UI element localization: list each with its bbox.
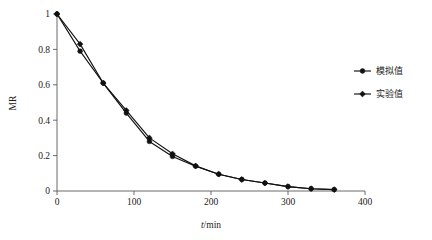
y-axis-tick-label: 1: [45, 9, 50, 19]
y-axis-tick-label: 0: [45, 186, 50, 196]
y-axis-title: MR: [8, 95, 18, 110]
x-axis-tick-label: 300: [281, 197, 296, 207]
y-axis-tick-label: 0.6: [38, 80, 50, 90]
y-axis-tick-label: 0.4: [38, 116, 50, 126]
x-axis-tick-label: 100: [127, 197, 142, 207]
legend-label: 实验值: [376, 88, 403, 99]
y-axis-tick-label: 0.2: [38, 151, 50, 161]
x-axis-tick-label: 200: [204, 197, 219, 207]
x-axis-title-unit: /min: [204, 220, 222, 230]
legend-label: 模拟值: [376, 65, 403, 76]
x-axis-tick-label: 0: [55, 197, 60, 207]
line-chart: 00.20.40.60.81 0100200300400 MR t/min 模拟…: [0, 0, 432, 240]
y-axis-tick-label: 0.8: [38, 45, 50, 55]
legend-marker-circle: [360, 69, 365, 74]
data-point-marker: [78, 49, 83, 54]
x-axis-title: t/min: [201, 220, 221, 230]
chart-figure: 00.20.40.60.81 0100200300400 MR t/min 模拟…: [0, 0, 432, 240]
x-axis-tick-label: 400: [358, 197, 373, 207]
